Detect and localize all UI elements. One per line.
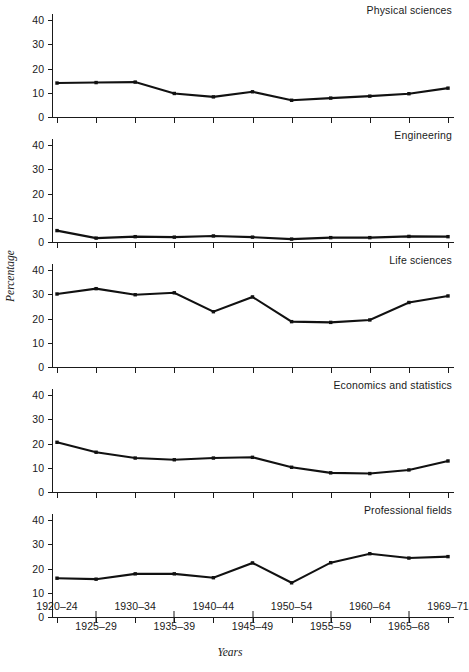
x-tick-label-upper: 1930–34 (114, 600, 156, 612)
x-label-separator-tick (330, 611, 331, 622)
panel-physical-sciences: 010203040Physical sciences (0, 0, 460, 125)
panel-title: Physical sciences (367, 4, 452, 16)
data-point-marker (407, 556, 410, 559)
data-point-marker (368, 552, 371, 555)
y-tick-label: 40 (32, 139, 44, 151)
y-tick-label: 0 (38, 236, 44, 248)
y-tick-label: 0 (38, 361, 44, 373)
data-point-marker (251, 561, 254, 564)
y-tick-label: 20 (32, 188, 44, 200)
data-point-marker (173, 291, 176, 294)
y-tick-label: 40 (32, 389, 44, 401)
x-axis-label: Years (0, 646, 460, 658)
data-point-marker (251, 456, 254, 459)
y-tick-label: 40 (32, 264, 44, 276)
data-point-marker (251, 295, 254, 298)
y-tick-label: 20 (32, 563, 44, 575)
data-point-marker (173, 92, 176, 95)
y-tick-label: 30 (32, 288, 44, 300)
data-point-marker (290, 466, 293, 469)
data-point-marker (329, 471, 332, 474)
y-tick-label: 10 (32, 87, 44, 99)
data-point-marker (446, 235, 449, 238)
data-point-marker (290, 320, 293, 323)
data-point-marker (94, 287, 97, 290)
data-point-marker (94, 577, 97, 580)
y-axis-label: Percentage (4, 286, 16, 302)
y-tick-label: 20 (32, 313, 44, 325)
data-point-marker (329, 321, 332, 324)
data-point-marker (173, 572, 176, 575)
data-point-marker (134, 80, 137, 83)
x-label-separator-tick (408, 611, 409, 622)
data-point-marker (290, 99, 293, 102)
x-tick-label-upper: 1940–44 (193, 600, 235, 612)
x-label-separator-tick (96, 611, 97, 622)
y-tick-label: 40 (32, 514, 44, 526)
y-tick-label: 20 (32, 63, 44, 75)
data-point-marker (212, 95, 215, 98)
data-point-marker (368, 472, 371, 475)
data-point-marker (446, 555, 449, 558)
data-point-marker (55, 292, 58, 295)
data-point-marker (55, 577, 58, 580)
data-point-marker (446, 86, 449, 89)
data-series-line (57, 554, 448, 583)
data-point-marker (407, 235, 410, 238)
panel-plot: 010203040 (0, 250, 460, 375)
panel-plot: 010203040 (0, 375, 460, 500)
data-point-marker (94, 451, 97, 454)
data-point-marker (329, 96, 332, 99)
data-point-marker (55, 81, 58, 84)
x-tick-label-upper: 1960–64 (349, 600, 391, 612)
data-point-marker (134, 572, 137, 575)
data-point-marker (94, 236, 97, 239)
x-tick-label-upper: 1920–24 (36, 600, 78, 612)
y-tick-label: 10 (32, 212, 44, 224)
data-point-marker (329, 561, 332, 564)
y-tick-label: 30 (32, 163, 44, 175)
y-tick-label: 30 (32, 38, 44, 50)
data-point-marker (55, 229, 58, 232)
data-point-marker (407, 468, 410, 471)
panel-plot: 010203040 (0, 0, 460, 125)
y-tick-label: 0 (38, 111, 44, 123)
data-point-marker (55, 441, 58, 444)
data-point-marker (173, 235, 176, 238)
y-tick-label: 30 (32, 413, 44, 425)
data-point-marker (446, 294, 449, 297)
data-point-marker (134, 456, 137, 459)
data-point-marker (329, 236, 332, 239)
data-point-marker (173, 458, 176, 461)
data-point-marker (368, 236, 371, 239)
data-point-marker (368, 94, 371, 97)
data-point-marker (407, 92, 410, 95)
data-point-marker (134, 235, 137, 238)
panel-engineering: 010203040Engineering (0, 125, 460, 250)
x-tick-label-upper: 1969–71 (427, 600, 469, 612)
data-point-marker (368, 318, 371, 321)
data-point-marker (212, 310, 215, 313)
panel-life-sciences: 010203040Life sciences (0, 250, 460, 375)
panel-title: Life sciences (389, 254, 452, 266)
x-label-separator-tick (174, 611, 175, 622)
x-label-separator-tick (252, 611, 253, 622)
data-point-marker (212, 576, 215, 579)
data-point-marker (407, 301, 410, 304)
y-tick-label: 0 (38, 486, 44, 498)
data-point-marker (290, 581, 293, 584)
x-tick-label-upper: 1950–54 (271, 600, 313, 612)
data-point-marker (251, 235, 254, 238)
y-tick-label: 30 (32, 538, 44, 550)
data-series-line (57, 289, 448, 323)
data-point-marker (212, 456, 215, 459)
y-tick-label: 20 (32, 438, 44, 450)
panel-title: Engineering (394, 129, 452, 141)
panel-title: Professional fields (364, 504, 452, 516)
y-tick-label: 10 (32, 462, 44, 474)
data-point-marker (134, 293, 137, 296)
data-point-marker (94, 81, 97, 84)
data-point-marker (212, 234, 215, 237)
panel-title: Economics and statistics (333, 379, 452, 391)
